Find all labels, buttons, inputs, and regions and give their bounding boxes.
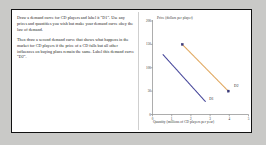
screenshot-root: Draw a demand curve for CD players and l… <box>0 0 266 145</box>
instruction-paragraph-2: Then draw a second demand curve that sho… <box>17 37 134 60</box>
plot-area <box>138 10 251 131</box>
axes <box>151 20 249 116</box>
instruction-paragraph-1: Draw a demand curve for CD players and l… <box>17 15 134 32</box>
data-series <box>163 43 229 101</box>
demand-curve-chart: Price (dollars per player) Quantity (mil… <box>138 10 251 131</box>
chart-pane: Price (dollars per player) Quantity (mil… <box>138 10 251 132</box>
worksheet-card: Draw a demand curve for CD players and l… <box>11 9 252 133</box>
instructions-pane: Draw a demand curve for CD players and l… <box>12 10 138 132</box>
